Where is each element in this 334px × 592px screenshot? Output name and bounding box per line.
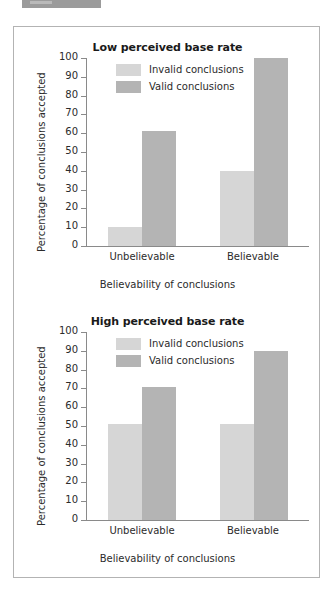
figure-page: Low perceived base rate Percentage of co… (0, 0, 334, 592)
y-axis-title: Percentage of conclusions accepted (36, 346, 47, 526)
figure-frame: Low perceived base rate Percentage of co… (13, 26, 320, 578)
x-axis-title: Believability of conclusions (14, 553, 321, 564)
bar-valid-believable (254, 58, 288, 246)
plot-area: 0 10 20 30 40 50 60 (86, 58, 309, 246)
x-tick-label-believable: Believable (198, 525, 308, 536)
legend-label-invalid: Invalid conclusions (149, 64, 244, 75)
legend-swatch-invalid-icon (116, 338, 141, 350)
y-axis-title: Percentage of conclusions accepted (36, 72, 47, 252)
x-axis-line (86, 520, 309, 521)
x-axis-line (86, 246, 309, 247)
legend-item-valid: Valid conclusions (116, 352, 244, 369)
legend-swatch-valid-icon (116, 355, 141, 367)
chart-panel-low-base-rate: Low perceived base rate Percentage of co… (14, 27, 321, 301)
legend-item-invalid: Invalid conclusions (116, 61, 244, 78)
y-axis-line (86, 332, 87, 521)
legend: Invalid conclusions Valid conclusions (116, 335, 244, 369)
bar-valid-unbelievable (142, 387, 176, 521)
plot-area: 0 10 20 30 40 50 60 (86, 332, 309, 520)
legend-swatch-valid-icon (116, 81, 141, 93)
bar-invalid-unbelievable (108, 424, 142, 520)
legend: Invalid conclusions Valid conclusions (116, 61, 244, 95)
chart-panel-high-base-rate: High perceived base rate Percentage of c… (14, 301, 321, 579)
legend-item-valid: Valid conclusions (116, 78, 244, 95)
bar-invalid-unbelievable (108, 227, 142, 246)
bar-valid-believable (254, 351, 288, 520)
bar-valid-unbelievable (142, 131, 176, 246)
y-axis-line (86, 58, 87, 247)
bar-invalid-believable (220, 171, 254, 246)
x-tick-label-unbelievable: Unbelievable (82, 251, 202, 262)
scan-artifact-bar (22, 0, 101, 8)
legend-swatch-invalid-icon (116, 64, 141, 76)
legend-label-invalid: Invalid conclusions (149, 338, 244, 349)
legend-item-invalid: Invalid conclusions (116, 335, 244, 352)
x-axis-title: Believability of conclusions (14, 279, 321, 290)
x-tick-label-unbelievable: Unbelievable (82, 525, 202, 536)
legend-label-valid: Valid conclusions (149, 81, 235, 92)
x-tick-label-believable: Believable (198, 251, 308, 262)
legend-label-valid: Valid conclusions (149, 355, 235, 366)
bar-invalid-believable (220, 424, 254, 520)
